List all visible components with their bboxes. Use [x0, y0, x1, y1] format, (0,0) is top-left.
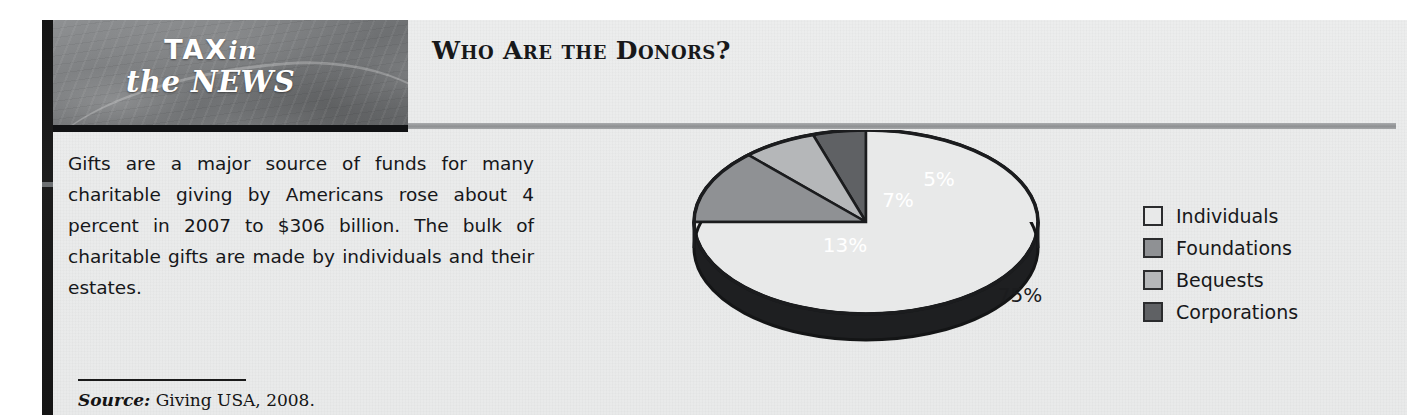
- legend-label-bequests: Bequests: [1176, 269, 1264, 291]
- source-value: Giving USA, 2008.: [156, 390, 315, 410]
- pie-label-corporations: 5%: [923, 167, 955, 191]
- pie-label-individuals: 75%: [998, 283, 1042, 307]
- pie-label-bequests: 7%: [882, 188, 914, 212]
- source-line: Source: Giving USA, 2008.: [78, 390, 315, 410]
- header-divider-rule: [408, 123, 1396, 129]
- body-paragraph: Gifts are a major source of funds for ma…: [68, 148, 534, 303]
- legend-swatch-individuals: [1143, 206, 1163, 226]
- masthead-underline: [53, 125, 408, 132]
- legend-item-corporations[interactable]: Corporations: [1143, 296, 1343, 328]
- pie-legend: Individuals Foundations Bequests Corpora…: [1143, 200, 1343, 328]
- donor-pie-chart: 5% 7% 13% 75%: [690, 130, 1120, 415]
- source-label: Source:: [78, 390, 150, 410]
- legend-swatch-bequests: [1143, 270, 1163, 290]
- legend-item-foundations[interactable]: Foundations: [1143, 232, 1343, 264]
- masthead-the-news-words: the NEWS: [53, 68, 368, 98]
- legend-label-individuals: Individuals: [1176, 205, 1278, 227]
- legend-swatch-corporations: [1143, 302, 1163, 322]
- legend-swatch-foundations: [1143, 238, 1163, 258]
- source-divider-rule: [78, 379, 246, 381]
- left-spine-bar: [42, 20, 53, 415]
- legend-label-foundations: Foundations: [1176, 237, 1292, 259]
- section-title: Who Are the Donors?: [432, 36, 731, 65]
- legend-item-bequests[interactable]: Bequests: [1143, 264, 1343, 296]
- tax-in-the-news-feature: TAXin the NEWS Who Are the Donors? Gifts…: [0, 0, 1407, 415]
- masthead-photo-band: TAXin the NEWS: [53, 20, 408, 125]
- masthead-in-word: in: [228, 36, 257, 65]
- legend-item-individuals[interactable]: Individuals: [1143, 200, 1343, 232]
- masthead-title: TAXin the NEWS: [53, 36, 408, 97]
- pie-label-foundations: 13%: [823, 233, 867, 257]
- masthead-tax-word: TAX: [164, 34, 228, 65]
- pie-chart-svg: 5% 7% 13% 75%: [690, 130, 1120, 415]
- spine-notch: [42, 182, 53, 187]
- legend-label-corporations: Corporations: [1176, 301, 1298, 323]
